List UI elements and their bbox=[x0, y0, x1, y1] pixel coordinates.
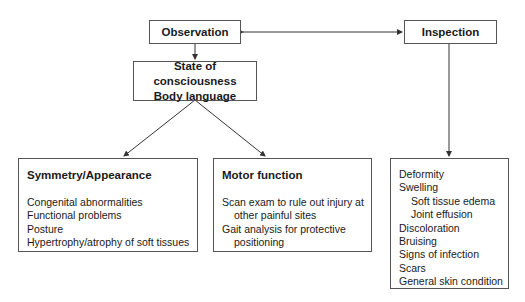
list-item: General skin condition bbox=[399, 275, 503, 288]
list-item: Bruising bbox=[399, 235, 503, 248]
symmetry-list: Congenital abnormalities Functional prob… bbox=[27, 196, 189, 250]
list-item: Congenital abnormalities bbox=[27, 196, 189, 209]
edge-state-symmetry bbox=[124, 100, 195, 156]
inspection-list-node: Deformity Swelling Soft tissue edema Joi… bbox=[390, 158, 509, 289]
state-line-2: Body language bbox=[154, 89, 236, 104]
list-item: Discoloration bbox=[399, 222, 503, 235]
motor-list: Scan exam to rule out injury at other pa… bbox=[222, 196, 364, 250]
list-item: Scan exam to rule out injury at bbox=[222, 196, 364, 209]
motor-node: Motor function Scan exam to rule out inj… bbox=[213, 158, 372, 252]
list-item: Deformity bbox=[399, 168, 503, 181]
list-item: Hypertrophy/atrophy of soft tissues bbox=[27, 236, 189, 249]
inspection-label: Inspection bbox=[422, 25, 480, 40]
list-item: Functional problems bbox=[27, 209, 189, 222]
inspection-node: Inspection bbox=[404, 20, 497, 44]
inspection-list: Deformity Swelling Soft tissue edema Joi… bbox=[399, 168, 503, 289]
list-item: Swelling bbox=[399, 181, 503, 194]
state-line-1: State of consciousness bbox=[134, 59, 256, 89]
observation-label: Observation bbox=[161, 25, 228, 40]
state-node: State of consciousness Body language bbox=[133, 61, 257, 101]
motor-title: Motor function bbox=[222, 169, 302, 181]
list-subitem: Soft tissue edema bbox=[399, 195, 503, 208]
symmetry-node: Symmetry/Appearance Congenital abnormali… bbox=[18, 158, 198, 252]
list-item: Signs of infection bbox=[399, 248, 503, 261]
list-item-continuation: positioning bbox=[222, 236, 364, 249]
symmetry-title: Symmetry/Appearance bbox=[27, 169, 152, 181]
edge-state-motor bbox=[195, 100, 265, 156]
list-item: Posture bbox=[27, 223, 189, 236]
list-item-continuation: other painful sites bbox=[222, 209, 364, 222]
observation-node: Observation bbox=[149, 20, 241, 44]
list-item: Gait analysis for protective bbox=[222, 223, 364, 236]
list-item: Scars bbox=[399, 262, 503, 275]
list-subitem: Joint effusion bbox=[399, 208, 503, 221]
